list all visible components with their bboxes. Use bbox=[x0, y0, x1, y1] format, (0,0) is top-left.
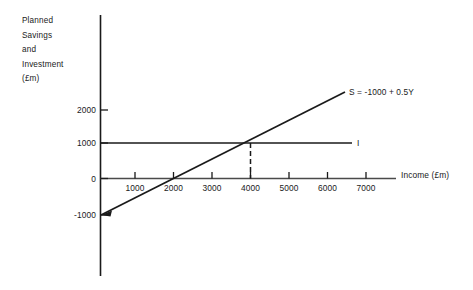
savings-line bbox=[101, 92, 345, 215]
y-axis-ticks bbox=[101, 110, 109, 215]
y-tick-label-2000: 2000 bbox=[77, 105, 96, 115]
y-tick-label-0: 0 bbox=[91, 174, 96, 184]
x-axis-title: Income (£m) bbox=[401, 170, 449, 180]
savings-investment-chart: Planned Savings and Investment (£m) 2000… bbox=[0, 0, 473, 290]
y-axis-tick-labels: 2000 1000 0 -1000 bbox=[74, 105, 96, 220]
x-tick-label-2000: 2000 bbox=[164, 183, 183, 193]
savings-line-label: S = -1000 + 0.5Y bbox=[349, 87, 414, 97]
x-tick-label-4000: 4000 bbox=[241, 183, 260, 193]
investment-line-label: I bbox=[357, 138, 359, 148]
x-tick-label-3000: 3000 bbox=[202, 183, 221, 193]
y-tick-label-1000: 1000 bbox=[77, 138, 96, 148]
y-tick-label-minus-1000: -1000 bbox=[74, 210, 96, 220]
x-tick-label-7000: 7000 bbox=[356, 183, 375, 193]
x-tick-label-1000: 1000 bbox=[125, 183, 144, 193]
chart-canvas: 2000 1000 0 -1000 1000 2000 3000 4000 50… bbox=[0, 0, 473, 290]
x-tick-label-6000: 6000 bbox=[318, 183, 337, 193]
x-tick-label-5000: 5000 bbox=[279, 183, 298, 193]
